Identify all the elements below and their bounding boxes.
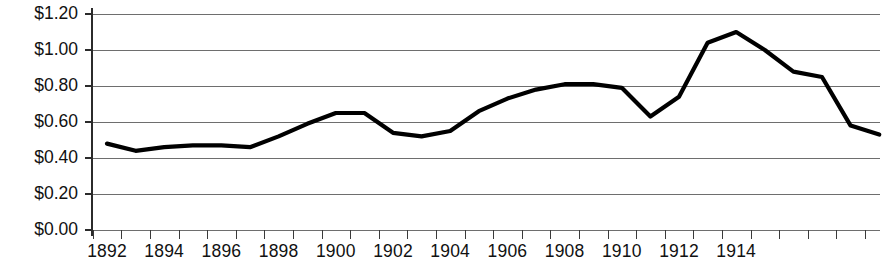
line-chart: $0.00$0.20$0.40$0.60$0.80$1.00$1.20 1892…: [0, 0, 893, 274]
series-line-price: [0, 0, 893, 274]
